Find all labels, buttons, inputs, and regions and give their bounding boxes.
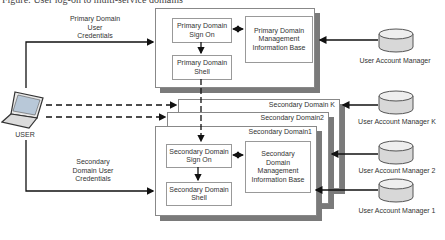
database-icon-k <box>377 90 417 116</box>
laptop-icon <box>1 90 51 130</box>
user-account-manager-2-label: User Account Manager 2 <box>352 167 442 176</box>
database-icon-primary <box>377 28 417 54</box>
database-icon-2 <box>377 140 417 166</box>
user-account-manager-k-label: User Account Manager K <box>352 118 442 127</box>
user-label: USER <box>8 131 42 140</box>
user-account-manager-label: User Account Manager <box>355 57 435 66</box>
user-account-manager-1-label: User Account Manager 1 <box>352 207 442 216</box>
database-icon-1 <box>377 178 417 204</box>
